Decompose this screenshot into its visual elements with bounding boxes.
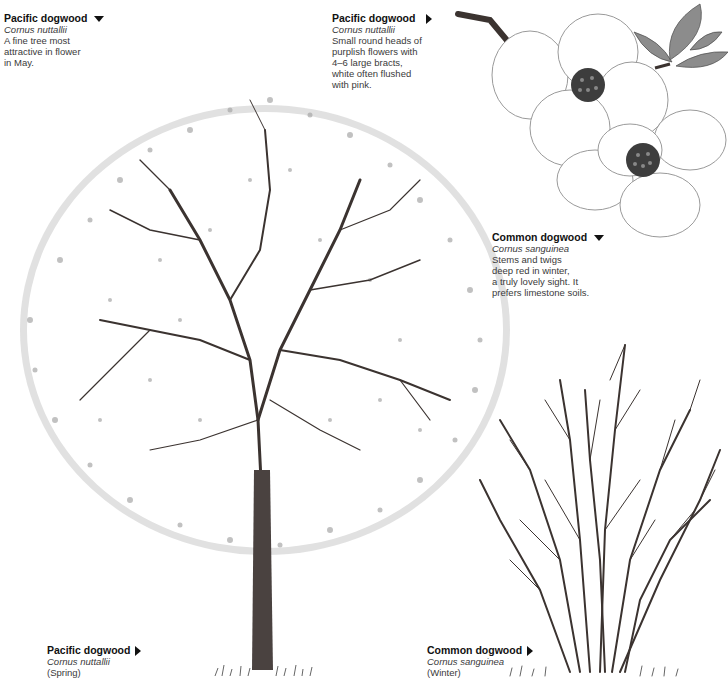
arrow-right-icon — [135, 646, 141, 656]
common-dogwood-shrub-illustration — [480, 345, 720, 676]
arrow-right-icon — [426, 14, 432, 24]
caption-title: Pacific dogwood — [332, 13, 432, 24]
latin-name: Cornus sanguinea — [492, 243, 632, 254]
caption-title: Common dogwood — [427, 645, 533, 656]
latin-name: Cornus nuttallii — [47, 656, 177, 667]
description-line: in May. — [4, 57, 144, 68]
description-line: with pink. — [332, 79, 462, 90]
illustration-canvas — [0, 0, 728, 684]
season-label: (Spring) — [47, 667, 177, 678]
caption-common-dogwood-winter: Common dogwood Cornus sanguinea (Winter) — [427, 645, 557, 678]
caption-title: Pacific dogwood — [47, 645, 141, 656]
caption-common-dogwood-description: Common dogwood Cornus sanguinea Stems an… — [492, 232, 632, 298]
arrow-right-icon — [527, 646, 533, 656]
description-line: deep red in winter, — [492, 265, 632, 276]
pacific-dogwood-tree-illustration — [20, 97, 510, 676]
caption-title: Common dogwood — [492, 232, 604, 243]
season-label: (Winter) — [427, 667, 557, 678]
pacific-dogwood-flower-illustration — [458, 4, 728, 237]
description-line: attractive in flower — [4, 46, 144, 57]
caption-pacific-dogwood-tree: Pacific dogwood Cornus nuttallii A fine … — [4, 13, 144, 68]
arrow-down-icon — [94, 16, 104, 22]
latin-name: Cornus sanguinea — [427, 656, 557, 667]
description-line: 4–6 large bracts, — [332, 57, 462, 68]
description-line: Small round heads of — [332, 35, 462, 46]
description-line: white often flushed — [332, 68, 462, 79]
caption-pacific-dogwood-spring: Pacific dogwood Cornus nuttallii (Spring… — [47, 645, 177, 678]
description-line: Stems and twigs — [492, 254, 632, 265]
caption-pacific-dogwood-flower: Pacific dogwood Cornus nuttallii Small r… — [332, 13, 462, 90]
arrow-down-icon — [594, 235, 604, 241]
description-line: purplish flowers with — [332, 46, 462, 57]
latin-name: Cornus nuttallii — [332, 24, 462, 35]
description-line: A fine tree most — [4, 35, 144, 46]
caption-title: Pacific dogwood — [4, 13, 104, 24]
description-line: prefers limestone soils. — [492, 287, 632, 298]
description-line: a truly lovely sight. It — [492, 276, 632, 287]
latin-name: Cornus nuttallii — [4, 24, 144, 35]
